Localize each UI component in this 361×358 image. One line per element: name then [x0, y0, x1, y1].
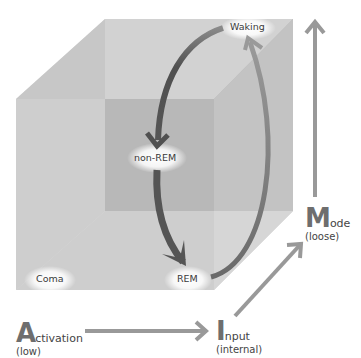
activation-axis-arrow: [85, 322, 206, 340]
state-label-non-rem: non-REM: [134, 152, 176, 163]
axis-initial-input: I: [216, 316, 225, 346]
axis-initial-activation: A: [16, 318, 35, 348]
mode-axis-arrow: [306, 22, 324, 197]
state-label-waking: Waking: [230, 21, 265, 32]
axis-name-mode: ode: [330, 217, 350, 230]
axis-label-activation: Activation (low): [16, 320, 83, 357]
state-label-rem: REM: [177, 273, 198, 284]
axis-qualifier-input: (internal): [216, 345, 262, 355]
state-label-coma: Coma: [36, 273, 64, 284]
axis-name-activation: ctivation: [35, 332, 83, 345]
axis-initial-mode: M: [305, 203, 330, 233]
axis-qualifier-mode: (loose): [305, 232, 350, 242]
axis-name-input: nput: [225, 330, 250, 343]
axis-qualifier-activation: (low): [16, 347, 83, 357]
axis-label-input: Input (internal): [216, 318, 262, 355]
axis-label-mode: Mode (loose): [305, 205, 350, 242]
cube-diagram: [0, 0, 361, 358]
